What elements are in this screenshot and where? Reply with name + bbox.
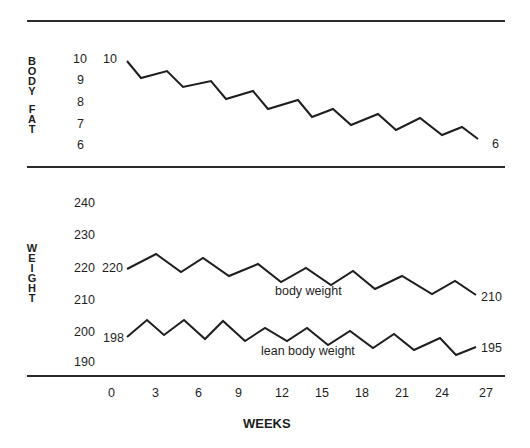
body-fat-line <box>127 61 478 139</box>
lean-body-weight-line <box>127 320 476 355</box>
chart-lines <box>0 0 530 448</box>
body-weight-line <box>127 254 476 295</box>
